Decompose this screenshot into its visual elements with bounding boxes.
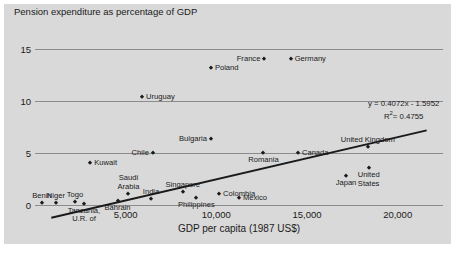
x-axis-label: GDP per capita (1987 US$): [35, 223, 443, 234]
trendline-equation: y = 0.4072x - 1.5952 R2= 0.4755: [368, 99, 439, 121]
data-point-label: Singapore: [165, 181, 200, 189]
x-tick-label: 10,000: [202, 209, 231, 220]
data-point-label: Togo: [67, 191, 83, 199]
data-point-label: Chile: [132, 148, 149, 156]
data-point-label: Philippines: [178, 201, 215, 209]
data-point-label: France: [237, 55, 261, 63]
x-tick-label: 15,000: [292, 209, 321, 220]
data-point-label: Uruguay: [146, 92, 175, 100]
chart-title: Pension expenditure as percentage of GDP: [14, 6, 197, 17]
y-tick-label: 15: [20, 44, 31, 55]
data-point-label: Mexico: [243, 194, 267, 202]
r-squared-value: = 0.4755: [393, 111, 424, 120]
data-point-label: Germany: [295, 55, 326, 63]
data-point-label: Japan: [336, 179, 357, 187]
y-tick-label: 10: [20, 96, 31, 107]
data-point-label: Canada: [302, 148, 329, 156]
data-point-label: Tanzania,U.R. of: [68, 207, 101, 224]
data-point-label: UnitedStates: [358, 171, 380, 188]
y-tick-label: 0: [26, 200, 31, 211]
data-point-label: Romania: [248, 156, 278, 164]
y-tick-label: 5: [26, 148, 31, 159]
chart-container: Pension expenditure as percentage of GDP…: [4, 4, 451, 244]
data-point-label: Poland: [215, 63, 239, 71]
data-point-label: India: [143, 188, 159, 196]
x-tick-label: 20,000: [383, 209, 412, 220]
data-point-label: Bulgaria: [179, 135, 207, 143]
data-point-label: Bahrain: [104, 204, 130, 212]
data-point-label: United Kingdom: [341, 136, 395, 144]
plot-area: 051015 5,00010,00015,00020,000 BeninNige…: [35, 37, 443, 205]
data-point-label: Kuwait: [94, 159, 117, 167]
r-squared-text: R2= 0.4755: [368, 109, 439, 121]
equation-text: y = 0.4072x - 1.5952: [368, 99, 439, 109]
data-point-label: Niger: [47, 192, 65, 200]
data-point-label: SaudiArabia: [117, 174, 139, 191]
